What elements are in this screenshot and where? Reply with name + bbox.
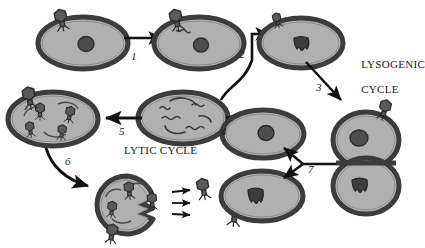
nucleoid <box>78 37 94 52</box>
internal-phage-1 <box>35 103 44 120</box>
step-label-6: 6 <box>65 155 71 167</box>
prophage-nucleoid <box>294 37 309 51</box>
cell-dividing <box>333 99 399 214</box>
nucleoid-upper <box>350 130 368 146</box>
lysogenic-line-2: CYCLE <box>361 83 399 95</box>
lysogenic-line-1: LYSOGENIC <box>361 58 425 70</box>
cell-assembly <box>8 86 98 146</box>
nucleoid <box>258 126 274 141</box>
release-arrows <box>172 190 190 215</box>
step-label-4: 4 <box>221 125 227 137</box>
lytic-cycle-label: LYTIC CYCLE <box>124 144 197 156</box>
lysogenic-cycle-label: LYSOGENIC CYCLE <box>349 46 425 108</box>
step-label-2: 2 <box>239 48 245 60</box>
cell-attachment <box>38 8 128 69</box>
cell-daughter <box>221 171 303 221</box>
cell-integrated <box>259 12 343 68</box>
arrow-3 <box>306 62 341 100</box>
nucleoid-lower <box>352 178 367 193</box>
cell-replication <box>138 92 228 144</box>
cell-injection <box>154 8 244 69</box>
step-label-5: 5 <box>119 125 125 137</box>
free-phage-1 <box>196 177 211 200</box>
prophage-nucleoid <box>248 188 263 204</box>
step-label-7: 7 <box>308 163 314 175</box>
cell-lysis <box>97 176 157 245</box>
cell-induced <box>222 110 304 158</box>
step-label-1: 1 <box>131 50 137 62</box>
lysis-phage-bottom <box>105 223 118 244</box>
nucleoid <box>194 38 209 52</box>
step-label-3: 3 <box>316 81 322 93</box>
